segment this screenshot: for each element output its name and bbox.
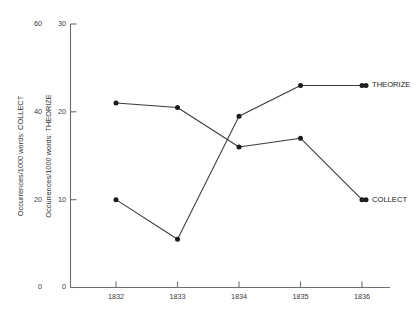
datapoint-theorize-1834[interactable] (237, 114, 242, 119)
plot-area (114, 83, 369, 242)
theorize-ticklabel-30: 30 (58, 19, 66, 28)
datapoint-theorize-1835[interactable] (298, 83, 303, 88)
line-chart: 30 20 10 0 60 40 20 0 Occurrences/1000 w… (0, 0, 418, 317)
datapoint-theorize-1832[interactable] (114, 197, 119, 202)
datapoint-theorize-1833[interactable] (175, 237, 180, 242)
series-label-collect: COLLECT (372, 195, 407, 204)
x-ticks (116, 282, 362, 288)
theorize-y-ticks (71, 24, 77, 288)
theorize-y-ticklabels: 30 20 10 0 (58, 19, 66, 292)
label-anchor-collect (364, 197, 369, 202)
x-ticklabel-1833: 1833 (169, 292, 185, 301)
collect-ticklabel-40: 40 (34, 107, 42, 116)
x-ticklabels: 1832 1833 1834 1835 1836 (108, 292, 370, 301)
x-ticklabel-1835: 1835 (292, 292, 308, 301)
x-ticklabel-1836: 1836 (354, 292, 370, 301)
collect-y-ticklabels: 60 40 20 0 (34, 19, 42, 292)
datapoint-collect-1835[interactable] (298, 136, 303, 141)
collect-axis-title: Occurrences/1000 words: COLLECT (16, 95, 25, 216)
series-label-theorize: THEORIZE (372, 80, 410, 89)
axis-group (71, 24, 391, 288)
theorize-ticklabel-10: 10 (58, 195, 66, 204)
datapoint-collect-1832[interactable] (114, 101, 119, 106)
theorize-ticklabel-20: 20 (58, 107, 66, 116)
collect-ticklabel-0: 0 (38, 282, 42, 291)
theorize-axis-title: Occurrences/1000 words: THEORIZE (44, 94, 53, 218)
datapoint-collect-1833[interactable] (175, 105, 180, 110)
x-ticklabel-1834: 1834 (231, 292, 247, 301)
collect-ticklabel-60: 60 (34, 19, 42, 28)
datapoint-collect-1834[interactable] (237, 144, 242, 149)
collect-ticklabel-20: 20 (34, 195, 42, 204)
label-anchor-theorize (364, 83, 369, 88)
theorize-ticklabel-0: 0 (62, 282, 66, 291)
x-ticklabel-1832: 1832 (108, 292, 124, 301)
